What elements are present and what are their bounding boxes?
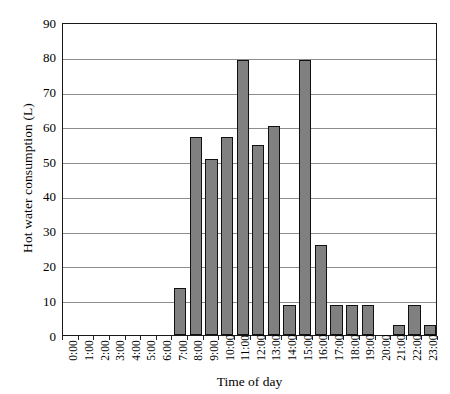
bar (283, 305, 295, 335)
y-axis-tick-labels: 0102030405060708090 (30, 0, 56, 394)
x-axis-title: Time of day (62, 374, 437, 390)
bar (190, 137, 202, 335)
x-tick-label: 6:00 (162, 340, 174, 360)
x-tick-label: 11:00 (240, 335, 252, 361)
x-axis-tick-labels: 0:001:002:003:004:005:006:007:008:009:00… (62, 341, 437, 377)
bar (424, 325, 436, 335)
x-tick-label: 9:00 (209, 340, 221, 360)
y-tick-label: 10 (32, 295, 56, 308)
bar (237, 60, 249, 335)
hot-water-consumption-bar-chart: Hot water consumption (L) 01020304050607… (0, 0, 450, 394)
x-tick-label: 5:00 (147, 340, 159, 360)
y-tick-label: 70 (32, 86, 56, 99)
x-tick-label: 7:00 (178, 340, 190, 360)
y-tick-label: 30 (32, 225, 56, 238)
y-tick-label: 20 (32, 260, 56, 273)
bar (252, 145, 264, 335)
y-tick-label: 90 (32, 17, 56, 30)
bar (299, 60, 311, 335)
x-tick-label: 18:00 (350, 335, 362, 361)
bar (330, 305, 342, 335)
y-tick-label: 50 (32, 156, 56, 169)
bar (315, 245, 327, 335)
x-tick-label: 10:00 (225, 335, 237, 361)
bar (221, 137, 233, 335)
bar (393, 325, 405, 335)
bar (408, 305, 420, 335)
x-tick (62, 336, 63, 340)
bar (174, 288, 186, 335)
x-tick-label: 0:00 (69, 340, 81, 360)
y-tick-label: 80 (32, 51, 56, 64)
x-tick-label: 3:00 (115, 340, 127, 360)
y-tick-label: 40 (32, 190, 56, 203)
y-tick-label: 0 (32, 330, 56, 343)
bar (346, 305, 358, 335)
x-tick-label: 20:00 (381, 335, 393, 361)
x-tick-label: 22:00 (412, 335, 424, 361)
x-tick-label: 13:00 (272, 335, 284, 361)
x-tick-label: 8:00 (194, 340, 206, 360)
x-tick-label: 12:00 (256, 335, 268, 361)
bars-layer (63, 24, 436, 335)
x-tick-label: 4:00 (131, 340, 143, 360)
plot-area (62, 23, 437, 336)
bar (362, 305, 374, 335)
y-tick-label: 60 (32, 121, 56, 134)
x-tick-label: 19:00 (365, 335, 377, 361)
x-tick-label: 23:00 (428, 335, 440, 361)
x-tick-label: 15:00 (303, 335, 315, 361)
bar (268, 126, 280, 335)
x-tick-label: 1:00 (84, 340, 96, 360)
x-tick-label: 17:00 (334, 335, 346, 361)
x-tick-label: 21:00 (397, 335, 409, 361)
x-tick-label: 14:00 (287, 335, 299, 361)
x-tick-label: 16:00 (319, 335, 331, 361)
bar (205, 159, 217, 335)
x-tick-label: 2:00 (100, 340, 112, 360)
